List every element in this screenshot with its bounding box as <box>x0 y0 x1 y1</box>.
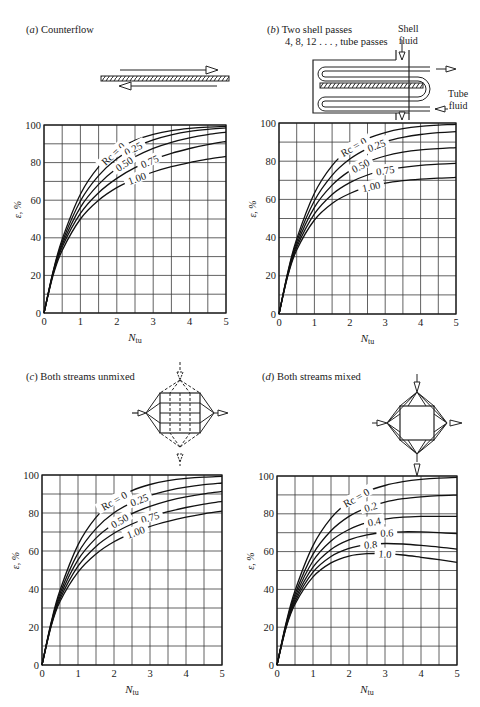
y-tick-label: 0 <box>269 660 274 671</box>
x-tick-label: 1 <box>75 668 80 679</box>
x-tick-label: 1 <box>310 668 315 679</box>
y-tick-label: 60 <box>31 195 42 206</box>
y-tick-label: 0 <box>34 660 39 671</box>
x-tick-label: 1 <box>312 317 317 328</box>
x-tick-label: 0 <box>39 668 44 679</box>
y-tick-label: 40 <box>266 232 277 243</box>
svg-text:0.75: 0.75 <box>375 164 395 178</box>
x-tick-label: 2 <box>346 668 351 679</box>
chart-d-xlabel: Ntu <box>359 683 374 697</box>
svg-text:1.00: 1.00 <box>126 170 147 187</box>
y-tick-label: 20 <box>29 622 40 633</box>
chart-a-ylabel: ε, % <box>12 201 23 218</box>
chart-d-curve-label-3: 0.6 <box>376 526 397 539</box>
y-tick-label: 60 <box>264 546 275 557</box>
svg-text:0.6: 0.6 <box>380 527 394 539</box>
x-tick-label: 4 <box>418 668 424 679</box>
y-tick-label: 80 <box>264 508 275 519</box>
x-tick-label: 2 <box>347 317 352 328</box>
y-tick-label: 20 <box>266 270 277 281</box>
y-tick-label: 60 <box>266 194 277 205</box>
svg-text:1.0: 1.0 <box>378 548 392 560</box>
y-tick-label: 100 <box>258 471 274 482</box>
chart-d: 012345020406080100Ntuε, %Rc = 00.20.40.6… <box>245 471 460 698</box>
x-tick-label: 5 <box>454 668 459 679</box>
y-tick-label: 20 <box>31 270 42 281</box>
x-tick-label: 2 <box>114 316 119 327</box>
x-tick-label: 4 <box>187 316 193 327</box>
y-tick-label: 80 <box>29 508 40 519</box>
x-tick-label: 3 <box>383 317 388 328</box>
chart-a-curve-label-3: 0.75 <box>135 150 164 172</box>
chart-b-ylabel: ε, % <box>247 200 258 217</box>
chart-c-ylabel: ε, % <box>10 552 21 569</box>
chart-b: 012345020406080100Ntuε, %Rc = 00.250.500… <box>247 118 459 347</box>
chart-c: 012345020406080100Ntuε, %Rc = 00.250.500… <box>10 470 225 698</box>
chart-a-xlabel: Ntu <box>127 331 142 345</box>
y-tick-label: 80 <box>31 157 42 168</box>
y-tick-label: 100 <box>25 120 41 131</box>
svg-text:1.00: 1.00 <box>125 524 146 541</box>
y-tick-label: 40 <box>31 232 42 243</box>
chart-c-xlabel: Ntu <box>124 683 139 697</box>
x-tick-label: 2 <box>111 668 116 679</box>
y-tick-label: 100 <box>260 118 276 129</box>
chart-a: 012345020406080100Ntuε, %Rc = 00.250.500… <box>12 120 229 346</box>
chart-a-curve-label-4: 1.00 <box>122 168 151 188</box>
y-tick-label: 40 <box>264 584 275 595</box>
chart-d-curve-label-5: 1.0 <box>374 547 396 560</box>
x-tick-label: 3 <box>147 668 152 679</box>
x-tick-label: 0 <box>274 668 279 679</box>
y-tick-label: 80 <box>266 156 277 167</box>
svg-text:1.00: 1.00 <box>361 179 381 194</box>
chart-d-ylabel: ε, % <box>245 552 256 569</box>
x-tick-label: 5 <box>219 668 224 679</box>
chart-b-xlabel: Ntu <box>360 332 375 346</box>
x-tick-label: 0 <box>276 317 281 328</box>
chart-c-curve-label-4: 1.00 <box>121 522 150 542</box>
x-tick-label: 3 <box>382 668 387 679</box>
x-tick-label: 1 <box>78 316 83 327</box>
x-tick-label: 5 <box>223 316 228 327</box>
x-tick-label: 3 <box>151 316 156 327</box>
chart-b-curve-label-3: 0.75 <box>371 162 399 178</box>
y-tick-label: 0 <box>271 309 276 320</box>
x-tick-label: 5 <box>453 317 458 328</box>
y-tick-label: 0 <box>36 308 41 319</box>
y-tick-label: 100 <box>23 470 39 481</box>
y-tick-label: 60 <box>29 546 40 557</box>
x-tick-label: 0 <box>41 316 46 327</box>
y-tick-label: 20 <box>264 622 275 633</box>
y-tick-label: 40 <box>29 584 40 595</box>
effectiveness-charts: 012345020406080100Ntuε, %Rc = 00.250.500… <box>0 0 480 707</box>
x-tick-label: 4 <box>418 317 424 328</box>
x-tick-label: 4 <box>183 668 189 679</box>
